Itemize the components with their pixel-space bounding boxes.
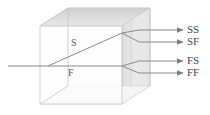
ray-label-FS: FS: [187, 55, 199, 66]
ray-label-F: F: [68, 68, 74, 78]
ray-label-SS: SS: [187, 24, 199, 35]
ray-label-SF: SF: [187, 36, 199, 47]
ray-label-S: S: [71, 38, 77, 48]
cube-front-face: [40, 26, 122, 104]
ray-diagram-svg: [0, 0, 210, 115]
ray-label-FF: FF: [187, 67, 199, 78]
figure-canvas: S F SS SF FS FF: [0, 0, 210, 115]
